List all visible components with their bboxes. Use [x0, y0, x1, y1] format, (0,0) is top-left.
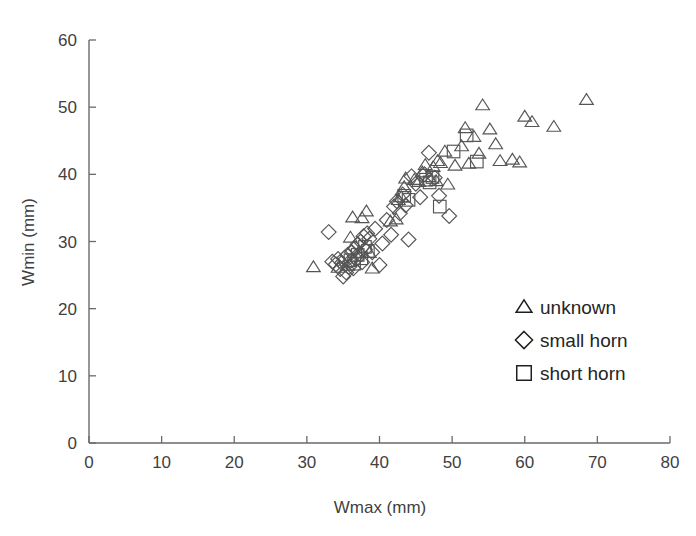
data-point-triangle [472, 147, 486, 158]
data-point-triangle [346, 211, 360, 222]
data-point-triangle [360, 205, 374, 216]
data-point-triangle [441, 178, 455, 189]
data-point-triangle [462, 157, 476, 168]
data-point-triangle [580, 94, 594, 105]
data-point-triangle [493, 155, 507, 166]
data-point-triangle [448, 159, 462, 170]
data-point-diamond [421, 145, 436, 160]
data-point-triangle [547, 120, 561, 131]
tick-labels-group: 010203040506070800102030405060 [58, 31, 679, 472]
data-point-triangle [476, 99, 490, 110]
data-point-diamond [401, 232, 416, 247]
data-point-triangle [483, 123, 497, 134]
data-point-triangle [438, 145, 452, 156]
data-point-triangle [307, 261, 321, 272]
y-tick-label: 30 [58, 233, 77, 252]
data-point-diamond [442, 209, 457, 224]
scatter-chart: 010203040506070800102030405060 unknownsm… [0, 0, 696, 536]
diamond-icon [515, 331, 532, 348]
data-point-triangle [489, 138, 503, 149]
x-tick-label: 80 [661, 453, 680, 472]
y-tick-label: 50 [58, 98, 77, 117]
data-point-triangle [355, 212, 369, 223]
legend: unknownsmall hornshort horn [515, 297, 627, 384]
x-tick-label: 50 [443, 453, 462, 472]
x-tick-label: 20 [225, 453, 244, 472]
data-points-group [307, 94, 594, 284]
x-tick-label: 10 [152, 453, 171, 472]
x-tick-label: 0 [84, 453, 93, 472]
square-icon [517, 366, 532, 381]
legend-label-diamond: small horn [540, 330, 628, 351]
x-tick-label: 60 [515, 453, 534, 472]
y-tick-label: 40 [58, 165, 77, 184]
plot-svg: 010203040506070800102030405060 unknownsm… [0, 0, 696, 536]
y-tick-label: 10 [58, 367, 77, 386]
data-point-diamond [321, 225, 336, 240]
x-tick-label: 40 [370, 453, 389, 472]
triangle-icon [516, 300, 532, 312]
x-tick-label: 70 [588, 453, 607, 472]
x-axis-title: Wmax (mm) [334, 498, 427, 517]
y-tick-label: 20 [58, 300, 77, 319]
data-point-triangle [506, 153, 520, 164]
legend-label-triangle: unknown [540, 297, 616, 318]
legend-label-square: short horn [540, 363, 626, 384]
y-tick-label: 60 [58, 31, 77, 50]
x-tick-label: 30 [297, 453, 316, 472]
y-tick-label: 0 [68, 434, 77, 453]
y-axis-title: Wmin (mm) [19, 198, 38, 286]
